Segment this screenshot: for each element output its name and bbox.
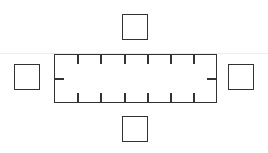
- chair-top: [122, 14, 148, 40]
- table-tick: [124, 93, 126, 102]
- table-tick: [100, 55, 102, 64]
- table-tick: [100, 93, 102, 102]
- table-tick: [170, 93, 172, 102]
- table-tick: [55, 78, 64, 80]
- table-tick: [77, 93, 79, 102]
- chair-right: [228, 64, 254, 90]
- table-tick: [147, 55, 149, 64]
- table-tick: [77, 55, 79, 64]
- chair-left: [14, 64, 40, 90]
- table-tick: [193, 55, 195, 64]
- table-tick: [124, 55, 126, 64]
- table-tick: [170, 55, 172, 64]
- chair-bottom: [122, 116, 148, 142]
- table: [54, 54, 217, 103]
- table-tick: [207, 78, 216, 80]
- table-tick: [147, 93, 149, 102]
- table-tick: [193, 93, 195, 102]
